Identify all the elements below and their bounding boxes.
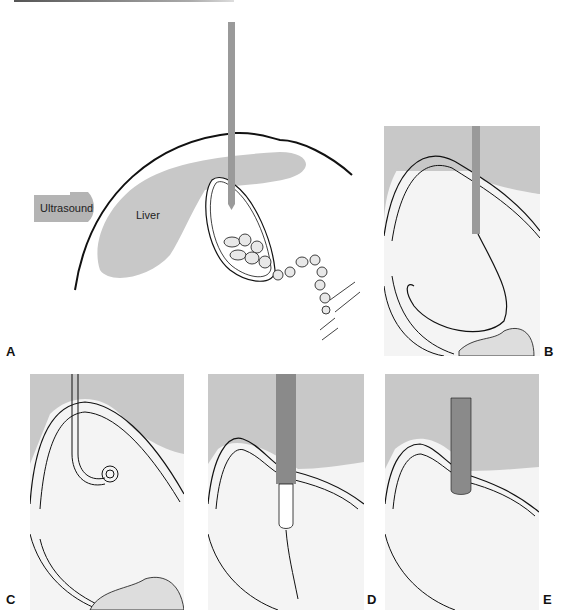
- ultrasound-label: Ultrasound: [40, 202, 93, 214]
- panel-label-d: D: [367, 592, 376, 607]
- panel-c-illustration: [30, 374, 184, 610]
- panel-c: C: [30, 374, 184, 610]
- panel-d: D: [208, 374, 364, 610]
- panel-b: B: [384, 126, 540, 356]
- panel-e-illustration: [385, 374, 539, 610]
- panel-b-illustration: [384, 126, 540, 356]
- liver-label: Liver: [136, 209, 160, 221]
- panel-label-e: E: [543, 592, 552, 607]
- panel-a: Ultrasound Liver A: [0, 0, 370, 350]
- panel-a-illustration: [0, 0, 370, 350]
- panel-d-illustration: [208, 374, 364, 610]
- panel-label-a: A: [6, 344, 15, 359]
- panel-e: E: [385, 374, 539, 610]
- panel-label-b: B: [544, 344, 553, 359]
- panel-label-c: C: [6, 592, 15, 607]
